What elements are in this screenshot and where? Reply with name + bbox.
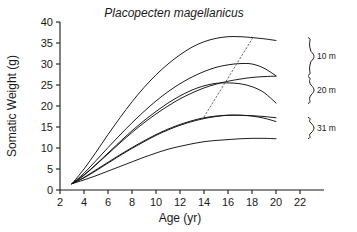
growth-curve-line [72, 138, 276, 183]
x-tick-label: 22 [294, 196, 306, 208]
x-tick-label: 2 [57, 196, 63, 208]
depth-group-brace [308, 117, 314, 138]
growth-curve-line [72, 76, 276, 184]
y-axis-title: Somatic Weight (g) [5, 55, 19, 157]
x-tick-label: 4 [81, 196, 87, 208]
y-tick-label: 0 [47, 184, 53, 196]
y-tick-label: 20 [41, 100, 53, 112]
x-tick-label: 20 [270, 196, 282, 208]
x-tick-label: 6 [105, 196, 111, 208]
figure-container: 0510152025303540246810121416182022Age (y… [0, 0, 357, 232]
growth-curve-line [72, 83, 276, 184]
growth-curve-chart: 0510152025303540246810121416182022Age (y… [0, 0, 357, 232]
x-tick-label: 10 [150, 196, 162, 208]
depth-group-brace [308, 38, 314, 76]
y-tick-label: 30 [41, 58, 53, 70]
x-tick-label: 12 [174, 196, 186, 208]
y-tick-label: 15 [41, 121, 53, 133]
chart-title: Placopecten magellanicus [104, 6, 243, 20]
depth-group-brace [308, 77, 314, 104]
x-axis-title: Age (yr) [159, 211, 202, 225]
depth-group-label: 10 m [317, 51, 336, 61]
y-tick-label: 40 [41, 16, 53, 28]
y-tick-label: 35 [41, 37, 53, 49]
isopleth-dotted-line [204, 37, 253, 117]
growth-curve-line [72, 37, 276, 184]
y-tick-label: 10 [41, 142, 53, 154]
x-tick-label: 18 [246, 196, 258, 208]
x-tick-label: 14 [198, 196, 210, 208]
x-tick-label: 8 [129, 196, 135, 208]
depth-group-label: 31 m [317, 123, 336, 133]
y-tick-label: 25 [41, 79, 53, 91]
depth-group-label: 20 m [317, 85, 336, 95]
y-tick-label: 5 [47, 163, 53, 175]
x-tick-label: 16 [222, 196, 234, 208]
